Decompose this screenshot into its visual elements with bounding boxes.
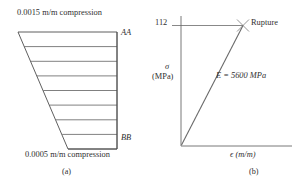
section-label-aa: AA [121,29,131,38]
bottom-strain-label: 0.0005 m/m compression [25,151,110,160]
section-label-bb: BB [121,134,131,143]
figure-container: 0.0015 m/m compression 0.0005 m/m compre… [0,0,300,188]
y-axis-tick-label-112: 112 [155,19,167,28]
x-axis-label-epsilon: ϵ (m/m) [230,151,255,160]
y-axis-unit-mpa: (MPa) [152,73,173,82]
elastic-modulus-line [182,26,244,146]
modulus-annotation: E = 5600 MPa [216,72,266,81]
panel-a-graphic [18,32,117,149]
rupture-annotation: Rupture [251,19,278,28]
top-strain-label: 0.0015 m/m compression [17,9,102,18]
panel-caption-a: (a) [62,168,71,177]
panel-caption-b: (b) [249,168,259,177]
y-axis-symbol-sigma: σ [165,63,169,72]
panel-b-graphic [172,16,292,146]
